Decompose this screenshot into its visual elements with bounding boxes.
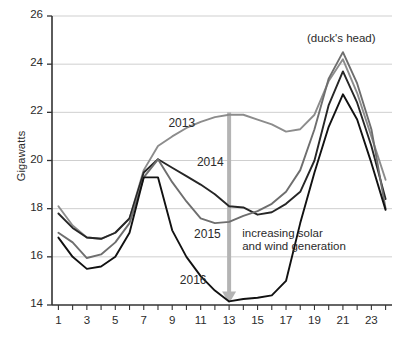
y-tick-label-26: 26 — [17, 8, 43, 20]
x-tick-label-19: 19 — [304, 314, 324, 326]
x-tick-label-1: 1 — [48, 314, 68, 326]
annotation-increasing-generation: increasing solar and wind generation — [242, 227, 346, 254]
series-line-2016 — [58, 94, 385, 301]
x-tick-label-15: 15 — [248, 314, 268, 326]
y-tick-label-18: 18 — [17, 201, 43, 213]
x-tick-label-5: 5 — [105, 314, 125, 326]
x-tick-label-13: 13 — [219, 314, 239, 326]
duck-curve-chart: Gigawatts 14161820222426 135791113151719… — [0, 0, 406, 338]
x-tick-label-9: 9 — [162, 314, 182, 326]
series-label-2013: 2013 — [168, 116, 195, 130]
y-tick-label-22: 22 — [17, 104, 43, 116]
x-tick-marks — [58, 305, 385, 310]
annotation-line-1: increasing solar — [242, 227, 346, 241]
x-tick-label-7: 7 — [134, 314, 154, 326]
series-label-2016: 2016 — [180, 273, 207, 287]
y-tick-label-16: 16 — [17, 249, 43, 261]
gridlines — [52, 16, 392, 257]
plot-area — [0, 0, 406, 338]
down-arrow-icon — [222, 112, 236, 303]
x-tick-label-11: 11 — [191, 314, 211, 326]
series-label-2015: 2015 — [194, 227, 221, 241]
y-tick-label-14: 14 — [17, 297, 43, 309]
annotation-line-2: and wind generation — [242, 240, 346, 254]
y-tick-label-20: 20 — [17, 153, 43, 165]
series-label-2014: 2014 — [197, 155, 224, 169]
x-tick-label-21: 21 — [333, 314, 353, 326]
y-tick-label-24: 24 — [17, 56, 43, 68]
x-tick-label-23: 23 — [361, 314, 381, 326]
x-tick-label-17: 17 — [276, 314, 296, 326]
annotation-ducks-head: (duck's head) — [307, 32, 376, 46]
x-tick-label-3: 3 — [77, 314, 97, 326]
series-lines — [58, 52, 385, 301]
